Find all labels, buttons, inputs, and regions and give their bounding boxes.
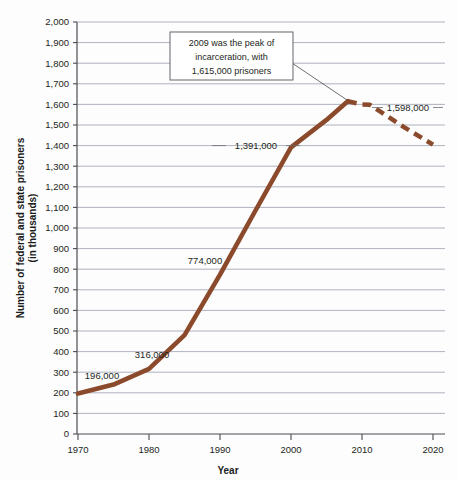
y-tick-0: 0 — [64, 428, 69, 439]
y-axis-title: Number of federal and state prisoners (i… — [15, 137, 38, 318]
y-tick-1100: 1,100 — [45, 202, 69, 213]
x-axis-tickmarks — [78, 434, 433, 440]
data-label-1598000: 1,598,000 — [387, 102, 429, 113]
x-tick-1970: 1970 — [67, 444, 88, 455]
data-label-774000: 774,000 — [188, 255, 222, 266]
chart-figure: 2,000 1,900 1,800 1,700 1,600 1,500 1,40… — [0, 0, 457, 480]
peak-callout: 2009 was the peak of incarceration, with… — [170, 32, 293, 80]
y-axis-tick-labels: 2,000 1,900 1,800 1,700 1,600 1,500 1,40… — [45, 16, 69, 439]
callout-line-3: 1,615,000 prisoners — [192, 66, 272, 76]
y-tick-1700: 1,700 — [45, 78, 69, 89]
y-tick-1300: 1,300 — [45, 161, 69, 172]
y-tick-1800: 1,800 — [45, 58, 69, 69]
x-tick-1990: 1990 — [209, 444, 230, 455]
x-tick-2020: 2020 — [422, 444, 443, 455]
x-tick-2000: 2000 — [280, 444, 301, 455]
y-tick-200: 200 — [53, 387, 69, 398]
callout-connector-line — [292, 63, 347, 100]
y-tick-1200: 1,200 — [45, 181, 69, 192]
y-tick-1900: 1,900 — [45, 37, 69, 48]
data-label-1391000-group: 1,391,000 — [212, 140, 300, 151]
y-tick-1600: 1,600 — [45, 99, 69, 110]
y-tick-600: 600 — [53, 305, 69, 316]
x-axis-tick-labels: 1970 1980 1990 2000 2010 2020 — [67, 444, 443, 455]
line-chart-canvas: 2,000 1,900 1,800 1,700 1,600 1,500 1,40… — [0, 0, 457, 480]
y-tick-1500: 1,500 — [45, 119, 69, 130]
x-axis-title: Year — [217, 465, 238, 476]
y-tick-2000: 2,000 — [45, 16, 69, 27]
x-tick-1980: 1980 — [138, 444, 159, 455]
y-tick-700: 700 — [53, 284, 69, 295]
callout-line-2: incarceration, with — [195, 52, 268, 62]
y-tick-400: 400 — [53, 346, 69, 357]
callout-line-1: 2009 was the peak of — [189, 38, 275, 48]
data-label-196000: 196,000 — [85, 370, 119, 381]
data-label-316000: 316,000 — [135, 349, 169, 360]
y-axis-title-line1: Number of federal and state prisoners — [15, 137, 26, 318]
y-tick-500: 500 — [53, 325, 69, 336]
y-tick-800: 800 — [53, 264, 69, 275]
y-tick-1000: 1,000 — [45, 222, 69, 233]
y-tick-300: 300 — [53, 367, 69, 378]
gridlines — [77, 22, 445, 413]
series-line-actual — [78, 101, 348, 393]
y-tick-1400: 1,400 — [45, 140, 69, 151]
data-label-1391000: 1,391,000 — [235, 140, 277, 151]
y-tick-900: 900 — [53, 243, 69, 254]
y-axis-title-line2: (in thousands) — [27, 194, 38, 263]
x-tick-2010: 2010 — [351, 444, 372, 455]
y-tick-100: 100 — [53, 408, 69, 419]
